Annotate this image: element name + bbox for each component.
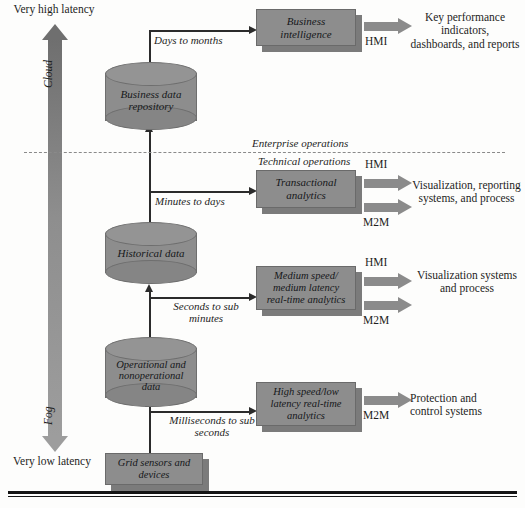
datastore-business-data-repository[interactable]: Business data repository bbox=[105, 62, 197, 132]
arrow-shaft bbox=[364, 277, 399, 286]
tier-label-cloud: Cloud bbox=[42, 60, 54, 88]
arrow-shaft bbox=[364, 203, 399, 212]
interface-label-m2m: M2M bbox=[363, 409, 389, 422]
diagram-canvas: Very high latency Cloud Fog Very low lat… bbox=[0, 0, 525, 508]
operations-divider bbox=[24, 152, 505, 153]
bottom-rule-thin bbox=[8, 496, 517, 497]
pipeline-spine-top bbox=[149, 130, 151, 226]
interface-label-hmi: HMI bbox=[365, 35, 387, 48]
outcome-kpi-dashboards: Key performance indicators, dashboards, … bbox=[406, 11, 524, 51]
latency-axis: Very high latency Cloud Fog Very low lat… bbox=[0, 0, 100, 478]
datastore-label: Business data repository bbox=[105, 88, 197, 112]
interface-arrow-hmi-transactional bbox=[364, 175, 412, 192]
bottom-rule-thick bbox=[8, 491, 517, 494]
cylinder-top bbox=[105, 62, 197, 86]
cylinder-top bbox=[105, 337, 197, 361]
analytics-label: Business intelligence bbox=[277, 15, 334, 40]
latency-axis-bottom-label: Very low latency bbox=[2, 455, 102, 468]
interface-label-m2m: M2M bbox=[363, 216, 389, 229]
flow-label-minutes-to-days: Minutes to days bbox=[155, 195, 225, 207]
analytics-label: Transactional analytics bbox=[272, 176, 339, 201]
datastore-operational-data[interactable]: Operational and nonoperational data bbox=[105, 337, 197, 409]
arrow-shaft bbox=[364, 179, 399, 188]
box-face: Medium speed/ medium latency real-time a… bbox=[256, 266, 356, 310]
cylinder-top bbox=[105, 222, 197, 246]
latency-arrow-head-down bbox=[42, 436, 68, 452]
arrow-shaft bbox=[364, 22, 399, 31]
interface-arrow-m2m-transactional bbox=[364, 199, 412, 216]
arrow-shaft bbox=[364, 301, 399, 310]
analytics-label: High speed/low latency real-time analyti… bbox=[267, 386, 344, 422]
flow-label-milliseconds-to-sub-seconds: Milliseconds to sub seconds bbox=[152, 414, 272, 439]
latency-axis-top-label: Very high latency bbox=[6, 3, 102, 16]
interface-arrow-hmi-bi bbox=[364, 18, 412, 35]
flow-label-seconds-to-sub-minutes: Seconds to sub minutes bbox=[152, 300, 260, 325]
analytics-business-intelligence[interactable]: Business intelligence bbox=[256, 9, 362, 52]
branch-minutes-to-days-run bbox=[149, 191, 251, 193]
divider-label-enterprise: Enterprise operations bbox=[252, 137, 348, 149]
cylinder-bottom bbox=[105, 260, 197, 284]
latency-arrow-shaft bbox=[48, 39, 62, 436]
latency-arrow-head-up bbox=[42, 24, 68, 40]
arrow-shaft bbox=[364, 396, 399, 405]
source-grid-sensors[interactable]: Grid sensors and devices bbox=[105, 453, 209, 491]
analytics-high-speed[interactable]: High speed/low latency real-time analyti… bbox=[256, 382, 362, 432]
arrow-head bbox=[398, 297, 412, 313]
box-face: Transactional analytics bbox=[256, 170, 356, 208]
analytics-transactional[interactable]: Transactional analytics bbox=[256, 170, 362, 214]
datastore-historical-data[interactable]: Historical data bbox=[105, 222, 197, 284]
analytics-medium-speed[interactable]: Medium speed/ medium latency real-time a… bbox=[256, 266, 362, 316]
datastore-label: Historical data bbox=[105, 247, 197, 259]
source-label: Grid sensors and devices bbox=[115, 457, 193, 481]
box-face: Business intelligence bbox=[256, 9, 356, 46]
interface-label-hmi: HMI bbox=[365, 256, 387, 269]
outcome-visualization-systems: Visualization systems and process bbox=[410, 269, 524, 296]
box-face: Grid sensors and devices bbox=[105, 453, 203, 485]
analytics-label: Medium speed/ medium latency real-time a… bbox=[264, 270, 349, 306]
interface-arrow-m2m-high-speed bbox=[364, 392, 412, 409]
datastore-label: Operational and nonoperational data bbox=[105, 359, 197, 392]
outcome-visualization-reporting: Visualization, reporting systems, and pr… bbox=[408, 179, 525, 206]
interface-arrow-m2m-medium bbox=[364, 297, 412, 314]
interface-label-m2m: M2M bbox=[363, 314, 389, 327]
branch-days-to-months-riser bbox=[149, 30, 151, 62]
branch-days-to-months-run bbox=[149, 30, 251, 32]
interface-arrow-hmi-medium bbox=[364, 273, 412, 290]
divider-label-technical: Technical operations bbox=[258, 155, 350, 167]
interface-label-hmi: HMI bbox=[365, 158, 387, 171]
tier-label-fog: Fog bbox=[42, 406, 54, 425]
pipeline-spine-mid-tip bbox=[145, 284, 153, 292]
flow-label-days-to-months: Days to months bbox=[154, 34, 222, 46]
branch-seconds-run bbox=[149, 297, 251, 299]
branch-milliseconds-run bbox=[149, 411, 251, 413]
outcome-protection-control: Protection and control systems bbox=[410, 392, 524, 419]
box-face: High speed/low latency real-time analyti… bbox=[256, 382, 356, 426]
